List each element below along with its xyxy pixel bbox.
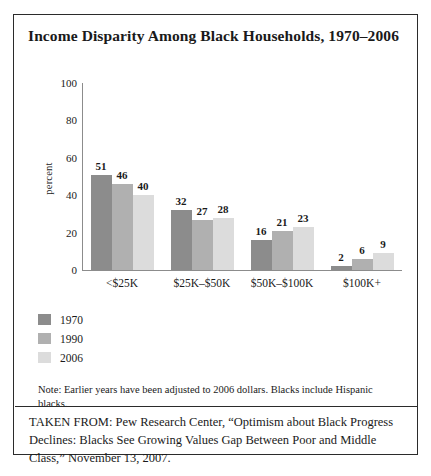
chart-legend: 197019902006	[38, 310, 83, 367]
y-axis-tick-100: 100	[44, 78, 77, 89]
legend-label: 2006	[60, 352, 83, 364]
y-axis-tick-0: 0	[44, 265, 77, 276]
bar-group: 269	[331, 83, 394, 270]
y-axis-tick-60: 60	[44, 153, 77, 164]
bar-2006-$100K+	[373, 253, 394, 270]
bar-group: 514640	[91, 83, 154, 270]
y-axis-tick-40: 40	[44, 190, 77, 201]
bar-1970-$100K+	[331, 266, 352, 270]
section-divider	[15, 406, 418, 407]
bar-1990-$100K+	[352, 259, 373, 270]
bar-1990-$25K–$50K	[192, 220, 213, 270]
bar-group: 322728	[171, 83, 234, 270]
bar-value-label: 23	[287, 213, 320, 224]
figure-frame: Income Disparity Among Black Households,…	[13, 14, 418, 455]
legend-swatch-icon	[38, 314, 51, 325]
legend-item-1990[interactable]: 1990	[38, 329, 83, 348]
legend-swatch-icon	[38, 352, 51, 363]
chart-title: Income Disparity Among Black Households,…	[28, 27, 399, 45]
legend-item-1970[interactable]: 1970	[38, 310, 83, 329]
bar-value-label: 28	[207, 204, 240, 215]
bar-value-label: 46	[106, 170, 139, 181]
bar-value-label: 9	[367, 239, 400, 250]
bar-1990-<$25K	[112, 184, 133, 270]
bar-2006-$50K–$100K	[293, 227, 314, 270]
bar-1970-<$25K	[91, 175, 112, 270]
legend-swatch-icon	[38, 333, 51, 344]
source-attribution: TAKEN FROM: Pew Research Center, “Optimi…	[29, 414, 407, 467]
bar-group: 162123	[251, 83, 314, 270]
bar-1990-$50K–$100K	[272, 231, 293, 270]
legend-label: 1970	[60, 314, 83, 326]
bar-2006-$25K–$50K	[213, 218, 234, 270]
bar-1970-$25K–$50K	[171, 210, 192, 270]
bar-value-label: 40	[127, 181, 160, 192]
y-axis-tick-20: 20	[44, 228, 77, 239]
legend-item-2006[interactable]: 2006	[38, 348, 83, 367]
x-axis-line	[82, 270, 402, 271]
bar-2006-<$25K	[133, 195, 154, 270]
chart-plot-area: percent 020406080100 5146403227281621232…	[14, 55, 417, 285]
y-axis-title: percent	[43, 139, 54, 219]
bars-layer: 514640322728162123269	[82, 83, 402, 270]
legend-label: 1990	[60, 333, 83, 345]
y-axis-tick-80: 80	[44, 115, 77, 126]
x-axis-label-3: $100K+	[313, 277, 412, 289]
bar-1970-$50K–$100K	[251, 240, 272, 270]
